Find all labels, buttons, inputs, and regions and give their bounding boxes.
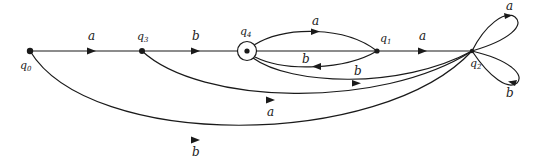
edge-q0-q2: b bbox=[30, 51, 472, 159]
edge-label-q3-q2: a bbox=[267, 105, 274, 119]
edge-label-q1-q2: a bbox=[419, 29, 426, 43]
edge-label-q3-q4: b bbox=[192, 29, 200, 43]
self-loop-q2-b: b bbox=[472, 51, 519, 100]
edge-q3-q4: b bbox=[142, 29, 238, 55]
edge-label-q2-q2-b: b bbox=[506, 86, 514, 100]
state-label-q2: q2 bbox=[470, 57, 482, 71]
edge-label-q0-q2: b bbox=[192, 145, 200, 159]
self-loop-q2-a: a bbox=[472, 0, 518, 51]
edge-label-q0-q3: a bbox=[88, 29, 95, 43]
edge-q4-q1: a bbox=[254, 14, 377, 51]
state-label-q1: q1 bbox=[380, 32, 392, 46]
edge-q0-q3: a bbox=[30, 29, 142, 55]
edge-label-q1-q4: b bbox=[302, 52, 310, 66]
state-label-q0: q0 bbox=[20, 59, 32, 73]
state-q4-accepting: q4 bbox=[238, 25, 257, 61]
edge-label-q4-q1: a bbox=[312, 14, 319, 28]
state-label-q3: q3 bbox=[137, 30, 149, 44]
state-label-q4: q4 bbox=[240, 25, 252, 39]
state-q0: q0 bbox=[20, 48, 33, 73]
edge-label-q4-q2: b bbox=[354, 64, 362, 78]
state-q1: q1 bbox=[374, 32, 391, 54]
edge-q4-q2: b bbox=[253, 51, 472, 87]
edge-label-q2-q2-a: a bbox=[506, 0, 513, 13]
automaton-diagram: a b a b a b a b bbox=[0, 0, 538, 163]
